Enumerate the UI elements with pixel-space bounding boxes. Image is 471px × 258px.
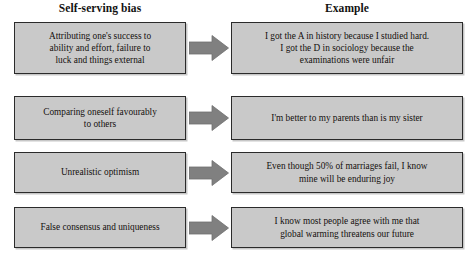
self-serving-bias-diagram: Self-serving bias Example Attributing on… bbox=[0, 0, 471, 258]
example-text: I know most people agree with me that gl… bbox=[237, 215, 457, 239]
right-arrow-icon bbox=[189, 160, 229, 186]
right-arrow-icon bbox=[189, 215, 229, 241]
example-text: I'm better to my parents than is my sist… bbox=[237, 112, 457, 124]
example-text: Even though 50% of marriages fail, I kno… bbox=[237, 160, 457, 184]
bias-text: False consensus and uniqueness bbox=[20, 221, 180, 233]
bias-text: Unrealistic optimism bbox=[20, 166, 180, 178]
column-header-self-serving-bias: Self-serving bias bbox=[14, 2, 186, 14]
example-box: I got the A in history because I studied… bbox=[231, 22, 463, 74]
example-box: Even though 50% of marriages fail, I kno… bbox=[231, 152, 463, 193]
example-box: I'm better to my parents than is my sist… bbox=[231, 96, 463, 140]
bias-box: Attributing one's success to ability and… bbox=[14, 22, 186, 74]
bias-box: Unrealistic optimism bbox=[14, 152, 186, 193]
bias-text: Attributing one's success to ability and… bbox=[20, 30, 180, 66]
right-arrow-icon bbox=[189, 35, 229, 61]
column-header-example: Example bbox=[231, 2, 463, 14]
bias-box: False consensus and uniqueness bbox=[14, 207, 186, 248]
example-box: I know most people agree with me that gl… bbox=[231, 207, 463, 248]
right-arrow-icon bbox=[189, 105, 229, 131]
bias-box: Comparing oneself favourably to others bbox=[14, 96, 186, 140]
example-text: I got the A in history because I studied… bbox=[237, 30, 457, 66]
bias-text: Comparing oneself favourably to others bbox=[20, 106, 180, 130]
